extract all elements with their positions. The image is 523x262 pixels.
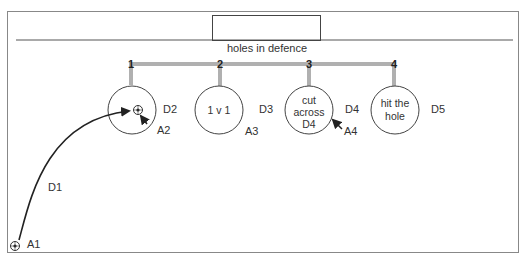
attacker-label-a3: A3 (245, 125, 258, 137)
hole-4-text-line1: hit the (381, 97, 410, 109)
drill-diagram: holes in defence 1 2 3 4 1 v 1 cut acros… (0, 0, 523, 262)
defender-label-d1: D1 (48, 181, 62, 193)
hole-number-1: 1 (128, 58, 134, 70)
hole-3-text-line2: across (294, 106, 325, 118)
attacker-label-a1: A1 (27, 238, 40, 250)
holes-bar (131, 62, 394, 86)
diagram-title: holes in defence (227, 42, 307, 54)
hole-3-text-line1: cut (302, 94, 316, 106)
hole-number-4: 4 (391, 58, 398, 70)
hole-3-text-line3: D4 (302, 118, 316, 130)
hole-2-text: 1 v 1 (208, 104, 231, 116)
hole-number-2: 2 (217, 58, 223, 70)
ball-icon (11, 242, 20, 251)
run-path-arrow (19, 111, 129, 240)
ball-icon (134, 106, 143, 115)
defender-label-d2: D2 (163, 103, 177, 115)
hole-circle-1 (108, 86, 156, 134)
attacker-label-a4: A4 (344, 125, 357, 137)
hole-number-3: 3 (306, 58, 312, 70)
defender-label-d4: D4 (345, 103, 359, 115)
goal (213, 16, 321, 41)
hole-4-text-line2: hole (385, 110, 405, 122)
attacker-arrow-a2 (141, 116, 147, 124)
attacker-arrow-a4 (333, 120, 342, 129)
defender-label-d5: D5 (431, 103, 445, 115)
attacker-label-a2: A2 (157, 124, 170, 136)
defender-label-d3: D3 (259, 103, 273, 115)
